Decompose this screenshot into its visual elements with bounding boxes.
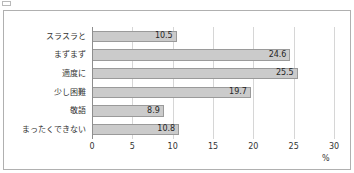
x-tick-label: 25 — [282, 142, 306, 152]
category-label: スラスラと — [0, 31, 86, 42]
caption-strip — [0, 0, 354, 9]
bar-row: まずまず24.6 — [92, 46, 334, 65]
category-label: まったくできない — [0, 124, 86, 135]
x-tick-label: 30 — [322, 142, 346, 152]
bar-value-label: 10.5 — [137, 31, 173, 42]
category-label: 適度に — [0, 68, 86, 79]
y-axis-line — [92, 27, 93, 139]
category-label: まずまず — [0, 49, 86, 60]
bar-value-label: 25.5 — [258, 68, 294, 79]
bar-row: 適度に25.5 — [92, 64, 334, 83]
bar-value-label: 10.8 — [139, 124, 175, 135]
plot-area: スラスラと10.5まずまず24.6適度に25.5少し困難19.7敬語8.9まった… — [92, 27, 334, 139]
square-bullet-icon — [2, 1, 11, 6]
category-label: 少し困難 — [0, 87, 86, 98]
x-tick-label: 20 — [241, 142, 265, 152]
bar-value-label: 24.6 — [250, 50, 286, 61]
chart-frame: スラスラと10.5まずまず24.6適度に25.5少し困難19.7敬語8.9まった… — [3, 10, 351, 170]
gridline-30 — [334, 27, 335, 139]
category-label: 敬語 — [0, 105, 86, 116]
axis-unit-label: % — [322, 154, 330, 164]
bar-row: スラスラと10.5 — [92, 27, 334, 46]
x-tick-label: 15 — [201, 142, 225, 152]
x-tick-label: 5 — [120, 142, 144, 152]
x-tick-label: 0 — [80, 142, 104, 152]
bar-row: まったくできない10.8 — [92, 120, 334, 139]
bar-value-label: 8.9 — [124, 106, 160, 117]
x-tick-label: 10 — [161, 142, 185, 152]
bar-row: 敬語8.9 — [92, 102, 334, 121]
bar-row: 少し困難19.7 — [92, 83, 334, 102]
bar-value-label: 19.7 — [211, 87, 247, 98]
